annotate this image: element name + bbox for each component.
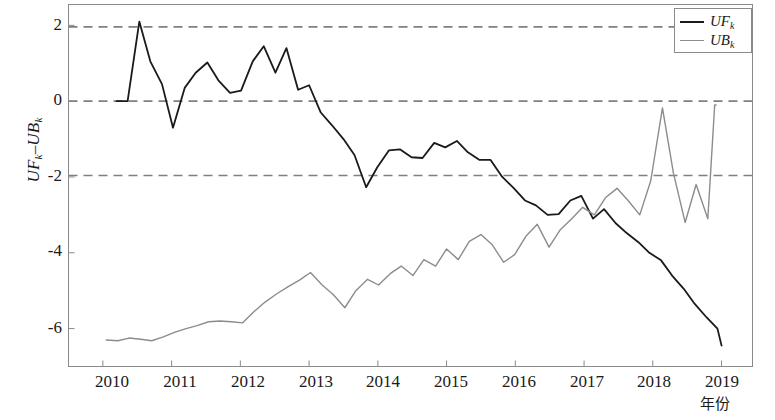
y-tick-label: 2 xyxy=(22,16,62,33)
x-tick-label: 2014 xyxy=(348,372,418,392)
series-line-ubk xyxy=(106,105,716,341)
x-tick-label: 2011 xyxy=(145,372,215,392)
chart-legend: UFk UBk xyxy=(674,8,752,53)
legend-swatch-ubk xyxy=(680,40,704,41)
x-tick-label: 2012 xyxy=(213,372,283,392)
legend-label-ufk: UFk xyxy=(710,14,734,30)
legend-label-ubk: UBk xyxy=(710,33,734,49)
legend-swatch-ufk xyxy=(680,21,704,23)
x-tick-label: 2017 xyxy=(552,372,622,392)
reference-lines-group xyxy=(69,27,753,176)
x-tick-label: 2018 xyxy=(619,372,689,392)
plot-canvas xyxy=(0,0,775,420)
x-tick-label: 2015 xyxy=(416,372,486,392)
series-line-ufk xyxy=(117,22,722,346)
x-tick-label: 2010 xyxy=(77,372,147,392)
legend-entry-ubk: UBk xyxy=(680,31,746,50)
x-axis-label: 年份 xyxy=(700,392,730,413)
x-tick-label: 2013 xyxy=(281,372,351,392)
data-series-group xyxy=(106,22,721,346)
chart-figure: UFk–UBk 2 0 -2 -4 -6 2010 2011 2012 2013… xyxy=(0,0,775,420)
legend-entry-ufk: UFk xyxy=(680,12,746,31)
y-tick-label: -4 xyxy=(22,242,62,259)
x-tick-label: 2016 xyxy=(484,372,554,392)
y-tick-label: -2 xyxy=(22,167,62,184)
y-axis-tick-labels: 2 0 -2 -4 -6 xyxy=(18,0,62,420)
y-tick-label: -6 xyxy=(22,319,62,336)
y-tick-label: 0 xyxy=(22,91,62,108)
x-tick-label: 2019 xyxy=(687,372,757,392)
